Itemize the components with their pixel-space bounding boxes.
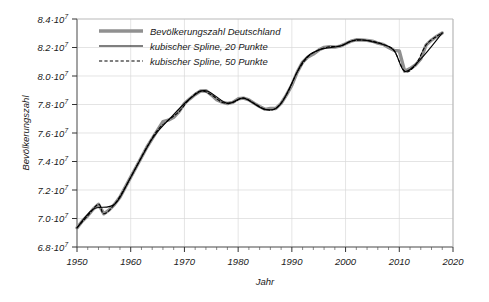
- legend-label: kubischer Spline, 20 Punkte: [150, 41, 268, 52]
- gridlines: [77, 19, 453, 247]
- y-axis-title: Bevölkerungszahl: [20, 95, 31, 171]
- y-tick-label: 8.2·107: [37, 41, 68, 53]
- chart-legend: Bevölkerungszahl Deutschlandkubischer Sp…: [99, 26, 281, 67]
- y-tick-label: 7.4·107: [37, 155, 68, 167]
- y-axis-ticks: [72, 19, 77, 247]
- population-line-chart: 19501960197019801990200020102020 6.8·107…: [0, 0, 489, 302]
- y-axis-tick-labels: 6.8·1077.0·1077.2·1077.4·1077.6·1077.8·1…: [37, 13, 68, 253]
- legend-label: kubischer Spline, 50 Punkte: [150, 56, 268, 67]
- y-tick-label: 7.0·107: [37, 212, 68, 224]
- legend-label: Bevölkerungszahl Deutschland: [150, 26, 281, 37]
- x-axis-title: Jahr: [255, 276, 275, 287]
- y-tick-label: 8.4·107: [37, 13, 68, 25]
- x-tick-label: 2020: [441, 256, 464, 267]
- chart-figure: 19501960197019801990200020102020 6.8·107…: [0, 0, 489, 302]
- x-axis-ticks: [77, 247, 453, 252]
- x-tick-label: 2010: [388, 256, 411, 267]
- y-tick-label: 6.8·107: [37, 241, 68, 253]
- y-tick-label: 8.0·107: [37, 70, 68, 82]
- x-tick-label: 1980: [228, 256, 250, 267]
- y-tick-label: 7.6·107: [37, 127, 68, 139]
- x-tick-label: 1950: [66, 256, 88, 267]
- x-tick-label: 1970: [174, 256, 196, 267]
- y-tick-label: 7.2·107: [37, 184, 68, 196]
- x-tick-label: 1960: [120, 256, 142, 267]
- x-tick-label: 1990: [281, 256, 303, 267]
- x-axis-tick-labels: 19501960197019801990200020102020: [66, 256, 464, 267]
- x-tick-label: 2000: [334, 256, 357, 267]
- y-tick-label: 7.8·107: [37, 98, 68, 110]
